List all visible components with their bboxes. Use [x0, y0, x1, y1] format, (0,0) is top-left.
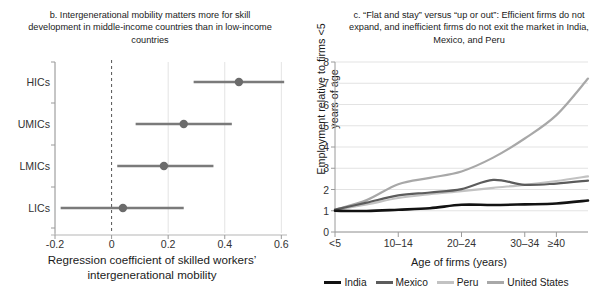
panel-c-ytick-label: 1	[313, 205, 329, 216]
category-label-umics: UMICs	[18, 118, 50, 130]
figure-container: b. Intergenerational mobility matters mo…	[0, 0, 594, 301]
legend-item-united-states[interactable]: United States	[487, 277, 568, 288]
panel-b-xtick-label: 0	[109, 238, 115, 250]
panel-b-xtick-label: 0.6	[274, 238, 289, 250]
panel-b-axis-title: Regression coefficient of skilled worker…	[12, 253, 292, 282]
panel-c-legend: IndiaMexicoPeruUnited States	[299, 277, 594, 288]
legend-swatch-icon	[324, 281, 341, 284]
legend-swatch-icon	[376, 281, 393, 284]
panel-c-ytick-label: 5	[313, 120, 329, 131]
panel-b-xtick-label: -0.2	[46, 238, 64, 250]
legend-label: Mexico	[396, 277, 428, 288]
panel-c-svg	[297, 0, 594, 250]
legend-item-peru[interactable]: Peru	[437, 277, 479, 288]
panel-b-xtick-label: 0.2	[161, 238, 176, 250]
category-label-lmics: LMICs	[19, 160, 50, 172]
legend-label: United States	[507, 277, 568, 288]
data-point-umics	[180, 120, 188, 128]
panel-c-ytick-label: 6	[313, 99, 329, 110]
panel-c-xtick-label: 10–14	[384, 238, 413, 249]
category-label-lics: LICs	[28, 202, 50, 214]
panel-c-ytick-label: 2	[313, 184, 329, 195]
panel-c-x-axis-title: Age of firms (years)	[327, 256, 591, 268]
legend-swatch-icon	[487, 281, 504, 284]
legend-label: Peru	[457, 277, 479, 288]
panel-c-xtick-label: 30–34	[510, 238, 539, 249]
data-point-lmics	[160, 162, 168, 170]
legend-label: India	[344, 277, 366, 288]
legend-swatch-icon	[437, 281, 454, 284]
panel-c-plot-area	[297, 0, 594, 250]
panel-b-intergenerational-mobility: b. Intergenerational mobility matters mo…	[0, 0, 297, 301]
panel-b-xtick-label: 0.4	[217, 238, 232, 250]
panel-c-ytick-label: 4	[313, 142, 329, 153]
panel-b-category-labels: HICs UMICs LMICs LICs	[0, 0, 50, 250]
data-point-hics	[235, 78, 243, 86]
panel-c-ytick-label: 8	[313, 57, 329, 68]
panel-c-xtick-label: <5	[329, 238, 341, 249]
legend-item-mexico[interactable]: Mexico	[376, 277, 428, 288]
panel-c-ytick-label: 3	[313, 163, 329, 174]
panel-c-ytick-label: 7	[313, 78, 329, 89]
panel-c-xtick-label: ≥40	[548, 238, 565, 249]
panel-c-xtick-label: 20–24	[447, 238, 476, 249]
panel-c-ytick-label: 0	[313, 227, 329, 238]
data-point-lics	[119, 204, 127, 212]
category-label-hics: HICs	[26, 76, 50, 88]
legend-item-india[interactable]: India	[324, 277, 366, 288]
panel-c-firm-employment: c. “Flat and stay” versus “up or out”: E…	[297, 0, 594, 301]
